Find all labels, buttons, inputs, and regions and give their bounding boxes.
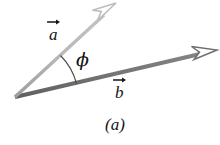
angle-arc [61,56,77,84]
vector-b-letter: b [114,84,125,101]
vector-b-shaft [15,54,200,97]
vector-a-arrowhead [93,3,117,21]
vector-figure: a b ϕ (a) [0,0,220,145]
vector-a-label: a [48,26,59,43]
vector-a-letter: a [48,26,59,43]
vector-b-label: b [114,84,125,101]
vector-a [15,3,116,97]
figure-caption: (a) [90,115,140,135]
angle-phi-label: ϕ [76,50,89,69]
